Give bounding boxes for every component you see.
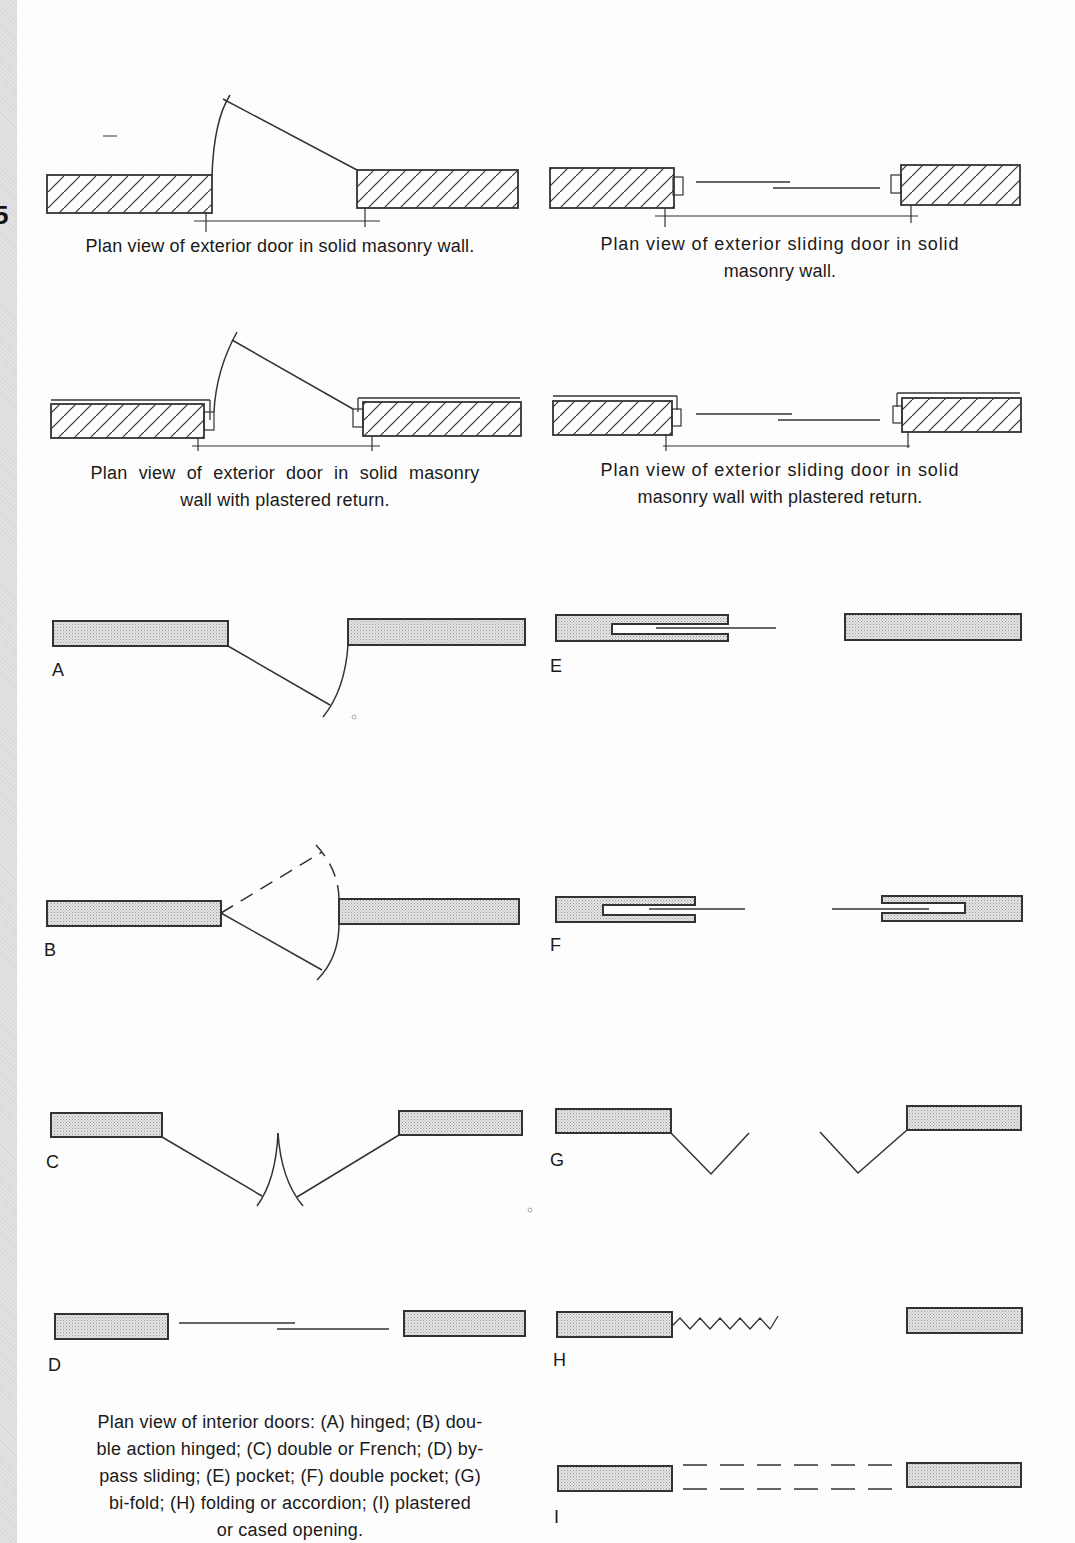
caption-exterior-hinged-solid: Plan view of exterior door in solid maso… (40, 233, 520, 260)
scan-specks (103, 135, 532, 1212)
caption-interior-doors: Plan view of interior doors: (A) hinged;… (70, 1409, 510, 1543)
diagram-G-bifold (556, 1106, 1021, 1174)
caption-interior-line-1: Plan view of interior doors: (A) hinged;… (70, 1409, 510, 1436)
diagram-exterior-sliding-solid (550, 165, 1020, 227)
caption-interior-line-5: or cased opening. (70, 1517, 510, 1543)
label-I: I (554, 1507, 559, 1528)
caption-exterior-hinged-plastered-line2: wall with plastered return. (55, 487, 515, 514)
diagram-A-hinged (53, 619, 525, 717)
caption-exterior-sliding-plastered-line1: Plan view of exterior sliding door in so… (555, 457, 1005, 484)
label-H: H (553, 1350, 566, 1371)
caption-exterior-sliding-solid-line2: masonry wall. (555, 258, 1005, 285)
diagram-F-double-pocket (556, 896, 1022, 922)
label-D: D (48, 1355, 61, 1376)
caption-interior-line-2: ble action hinged; (C) double or French;… (70, 1436, 510, 1463)
label-G: G (550, 1150, 564, 1171)
label-E: E (550, 656, 562, 677)
caption-interior-line-4: bi-fold; (H) folding or accordion; (I) p… (70, 1490, 510, 1517)
caption-exterior-sliding-plastered-line2: masonry wall with plastered return. (555, 484, 1005, 511)
caption-exterior-sliding-solid-line1: Plan view of exterior sliding door in so… (555, 231, 1005, 258)
diagram-exterior-hinged-solid (47, 95, 518, 232)
caption-interior-line-3: pass sliding; (E) pocket; (F) double poc… (70, 1463, 510, 1490)
label-A: A (52, 660, 64, 681)
diagram-D-bypass (55, 1311, 525, 1339)
caption-exterior-hinged-plastered-line1: Plan view of exterior door in solid maso… (55, 460, 515, 487)
diagram-exterior-sliding-plastered (553, 393, 1021, 451)
diagram-B-double-action (47, 845, 519, 980)
diagram-exterior-hinged-plastered (51, 332, 521, 451)
diagram-H-accordion (557, 1308, 1022, 1337)
diagram-I-cased-opening (558, 1463, 1021, 1491)
diagram-E-pocket (556, 614, 1021, 641)
diagram-C-double-french (51, 1111, 522, 1206)
label-C: C (46, 1152, 59, 1173)
label-B: B (44, 940, 56, 961)
label-F: F (550, 935, 561, 956)
